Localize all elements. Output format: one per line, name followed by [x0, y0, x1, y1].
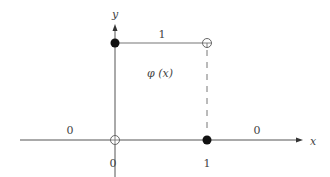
y-axis-label: y — [112, 8, 118, 21]
x-axis-label: x — [310, 135, 316, 148]
tick-label-one: 1 — [204, 157, 211, 170]
x-axis-arrow-icon — [296, 138, 303, 143]
segment-label-middle: 1 — [159, 28, 166, 41]
segment-label-left: 0 — [67, 124, 74, 137]
tick-label-origin: 0 — [110, 157, 117, 170]
segment-label-right: 0 — [254, 124, 261, 137]
filled-dot-0-1 — [111, 39, 120, 48]
filled-dot-1-0 — [203, 136, 212, 145]
function-label: φ (x) — [147, 67, 173, 80]
y-axis-arrow-icon — [113, 24, 118, 31]
